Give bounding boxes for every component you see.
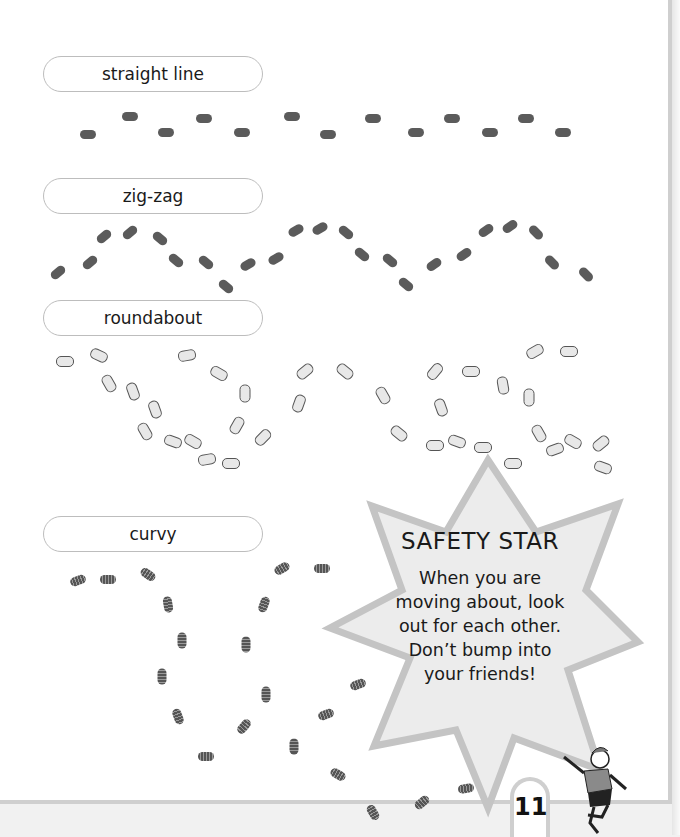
safety-star: SAFETY STAR When you are moving about, l… — [370, 528, 590, 686]
safety-star-line: moving about, look — [370, 590, 590, 614]
jumping-boy-icon — [560, 745, 630, 835]
safety-star-line: When you are — [370, 566, 590, 590]
safety-star-title: SAFETY STAR — [370, 528, 590, 554]
safety-star-line: your friends! — [370, 662, 590, 686]
safety-star-line: out for each other. — [370, 614, 590, 638]
safety-star-line: Don’t bump into — [370, 638, 590, 662]
safety-star-body: When you are moving about, look out for … — [370, 566, 590, 686]
page-number: 11 — [510, 777, 550, 837]
